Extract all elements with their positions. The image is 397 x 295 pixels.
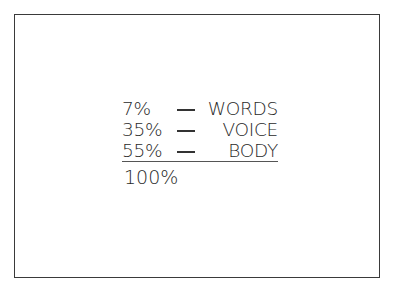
total-value: 100%	[124, 166, 178, 188]
row-label: BODY	[228, 140, 278, 162]
dash-separator	[177, 130, 195, 132]
row-words: 7% WORDS	[122, 98, 278, 120]
sum-rule-divider	[122, 161, 278, 162]
dash-separator	[177, 151, 195, 153]
dash-separator	[177, 109, 195, 111]
row-body: 55% BODY	[122, 140, 278, 162]
percent-value: 55%	[122, 140, 162, 162]
row-voice: 35% VOICE	[122, 119, 278, 141]
percent-value: 35%	[122, 119, 162, 141]
percent-value: 7%	[122, 98, 151, 120]
row-label: WORDS	[208, 98, 278, 120]
row-label: VOICE	[223, 119, 278, 141]
